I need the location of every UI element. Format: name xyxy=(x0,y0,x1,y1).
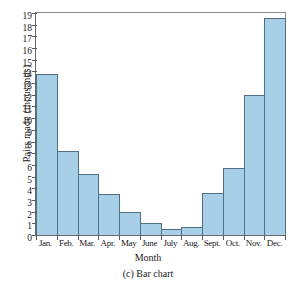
y-tick-mark xyxy=(32,223,37,224)
y-tick-mark xyxy=(32,200,37,201)
bar xyxy=(119,212,141,235)
bar xyxy=(78,174,100,235)
y-tick-mark xyxy=(32,106,37,107)
x-tick-label: July xyxy=(160,238,181,249)
y-tick-mark xyxy=(32,48,37,49)
y-tick-mark xyxy=(32,13,37,14)
x-tick-label: Jan. xyxy=(35,238,56,249)
bar-series xyxy=(36,13,285,235)
y-tick-mark xyxy=(32,130,37,131)
bar xyxy=(202,193,224,235)
bar xyxy=(57,151,79,235)
bar xyxy=(264,18,286,235)
x-axis-tick-labels: Jan.Feb.Mar.Apr.MayJuneJulyAug.Sept.Oct.… xyxy=(35,238,285,249)
x-tick-mark xyxy=(285,235,286,240)
bar xyxy=(140,223,162,235)
x-tick-label: Sept. xyxy=(202,238,223,249)
x-tick-label: Mar. xyxy=(77,238,98,249)
bar xyxy=(181,227,203,235)
y-tick-mark xyxy=(32,36,37,37)
y-tick-mark xyxy=(32,118,37,119)
y-tick-mark xyxy=(32,60,37,61)
y-tick-mark xyxy=(32,83,37,84)
figure-caption: (c) Bar chart xyxy=(0,268,296,279)
y-tick-mark xyxy=(32,212,37,213)
bar xyxy=(98,194,120,235)
y-tick-mark xyxy=(32,188,37,189)
y-tick-mark xyxy=(32,165,37,166)
plot-area xyxy=(35,12,286,236)
y-axis-tick-labels: 012345678910111213141516171819 xyxy=(12,6,32,246)
y-tick-mark xyxy=(32,153,37,154)
bar xyxy=(244,95,266,235)
x-tick-label: Nov. xyxy=(243,238,264,249)
x-tick-label: Apr. xyxy=(97,238,118,249)
x-tick-label: Feb. xyxy=(56,238,77,249)
bar-chart-figure: Pairs made (thousands) 01234567891011121… xyxy=(0,0,296,283)
y-tick-mark xyxy=(32,142,37,143)
y-tick-mark xyxy=(32,25,37,26)
x-tick-label: Oct. xyxy=(222,238,243,249)
x-tick-label: Aug. xyxy=(181,238,202,249)
y-tick-mark xyxy=(32,177,37,178)
x-axis-label: Month xyxy=(0,252,296,263)
bar xyxy=(36,74,58,235)
y-tick-mark xyxy=(32,71,37,72)
bar xyxy=(161,229,183,235)
x-tick-label: Dec. xyxy=(264,238,285,249)
bar xyxy=(223,168,245,235)
x-tick-label: June xyxy=(139,238,160,249)
y-tick-mark xyxy=(32,95,37,96)
x-tick-label: May xyxy=(118,238,139,249)
